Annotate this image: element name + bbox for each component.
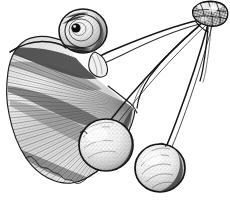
botanical-illustration: Ginkgo biloba branch with leaf and seeds — [0, 0, 230, 204]
illustration-canvas — [0, 0, 230, 204]
seed-upper-left-hilum — [71, 23, 80, 32]
seed-upper-left-hilum-highlight — [73, 25, 76, 28]
